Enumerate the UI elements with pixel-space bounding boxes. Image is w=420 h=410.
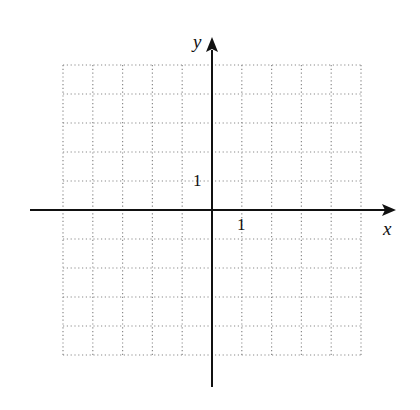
coordinate-plane [0, 0, 420, 410]
x-tick-label-1: 1 [237, 215, 246, 235]
y-tick-label-1: 1 [193, 171, 202, 191]
y-axis-arrow-icon [206, 37, 218, 52]
x-axis-label: x [383, 218, 391, 240]
y-axis-label: y [193, 31, 201, 53]
